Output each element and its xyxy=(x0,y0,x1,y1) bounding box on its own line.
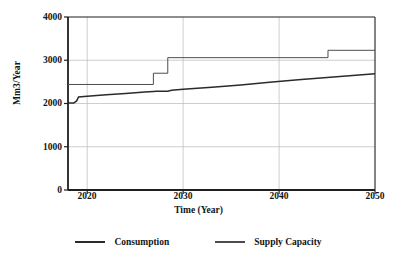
legend-item-supply-capacity: Supply Capacity xyxy=(215,237,321,247)
chart-legend: Consumption Supply Capacity xyxy=(0,232,397,252)
legend-item-consumption: Consumption xyxy=(75,237,169,247)
legend-label: Supply Capacity xyxy=(254,237,321,247)
x-tick-label: 2040 xyxy=(259,192,299,202)
chart-figure: Mm3/Year 4000 3000 2000 1000 0 xyxy=(0,0,397,261)
legend-label: Consumption xyxy=(114,237,169,247)
x-tick-label: 2020 xyxy=(67,192,107,202)
consumption-line-swatch xyxy=(75,241,105,243)
x-tick-label: 2030 xyxy=(163,192,203,202)
x-tick-label: 2050 xyxy=(355,192,395,202)
supply-capacity-line-swatch xyxy=(215,241,245,242)
x-axis-tick-labels: 2020 2030 2040 2050 xyxy=(0,0,397,261)
x-axis-title: Time (Year) xyxy=(0,205,397,215)
